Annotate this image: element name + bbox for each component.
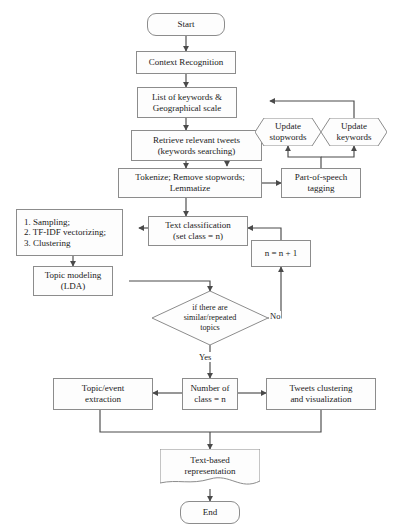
node-decision-label: if there are similar/repeated topics (152, 303, 268, 332)
node-topic-modeling[interactable]: Topic modeling (LDA) (33, 266, 113, 296)
flowchart-connectors (0, 0, 400, 527)
node-topic-extraction-label: Topic/event extraction (54, 383, 152, 404)
edge-label-yes-text: Yes (199, 352, 211, 362)
edge-label-no: No (269, 311, 281, 321)
node-keywords-list-label: List of keywords & Geographical scale (138, 92, 236, 113)
node-context-recognition[interactable]: Context Recognition (136, 51, 236, 74)
node-text-representation[interactable]: Text-based representation (160, 449, 260, 489)
node-text-classification-label: Text classification (set class = n) (149, 220, 247, 241)
node-end-label: End (181, 507, 239, 518)
node-start[interactable]: Start (147, 13, 225, 36)
node-update-stopwords[interactable]: Update stopwords (255, 118, 321, 146)
edge-label-yes: Yes (198, 352, 212, 362)
edge-clustering-to-join (210, 410, 321, 432)
edge-topic-modeling-to-decision (129, 281, 210, 291)
edge-increment-to-classification (248, 228, 281, 240)
node-number-of-class-label: Number of class = n (183, 383, 237, 404)
node-text-classification[interactable]: Text classification (set class = n) (148, 216, 248, 246)
node-text-representation-label: Text-based representation (160, 455, 260, 476)
node-update-keywords-label: Update keywords (321, 121, 387, 142)
node-update-keywords[interactable]: Update keywords (321, 118, 387, 146)
node-keywords-list[interactable]: List of keywords & Geographical scale (137, 87, 237, 118)
node-topic-modeling-label: Topic modeling (LDA) (34, 270, 112, 291)
node-tweets-clustering-label: Tweets clustering and visualization (267, 383, 375, 404)
flowchart-canvas: Start Context Recognition List of keywor… (0, 0, 400, 527)
node-start-label: Start (148, 19, 224, 30)
node-context-recognition-label: Context Recognition (137, 57, 235, 68)
node-pos-tagging[interactable]: Part-of-speech tagging (281, 168, 361, 198)
node-end[interactable]: End (180, 501, 240, 524)
edge-pos-to-update-keywords (321, 146, 354, 157)
node-tokenize[interactable]: Tokenize; Remove stopwords; Lemmatize (118, 168, 262, 198)
edge-label-no-text: No (270, 311, 280, 321)
edge-pos-to-updates (288, 146, 321, 168)
node-retrieve-tweets-label: Retrieve relevant tweets (keywords searc… (132, 135, 261, 156)
node-decision-similar-topics[interactable]: if there are similar/repeated topics (152, 291, 268, 345)
edge-update-keywords-to-list (270, 101, 354, 118)
node-retrieve-tweets[interactable]: Retrieve relevant tweets (keywords searc… (131, 130, 262, 161)
node-increment[interactable]: n = n + 1 (251, 240, 311, 267)
node-topic-extraction[interactable]: Topic/event extraction (53, 378, 153, 410)
node-methods-list[interactable]: 1. Sampling; 2. TF-IDF vectorizing; 3. C… (16, 209, 123, 256)
node-increment-label: n = n + 1 (252, 248, 310, 259)
node-pos-tagging-label: Part-of-speech tagging (282, 172, 360, 193)
node-tokenize-label: Tokenize; Remove stopwords; Lemmatize (119, 172, 261, 193)
node-number-of-class[interactable]: Number of class = n (182, 378, 238, 410)
edge-extraction-to-join (100, 410, 210, 432)
node-update-stopwords-label: Update stopwords (255, 121, 321, 142)
node-methods-list-label: 1. Sampling; 2. TF-IDF vectorizing; 3. C… (17, 217, 122, 249)
node-tweets-clustering[interactable]: Tweets clustering and visualization (266, 378, 376, 410)
